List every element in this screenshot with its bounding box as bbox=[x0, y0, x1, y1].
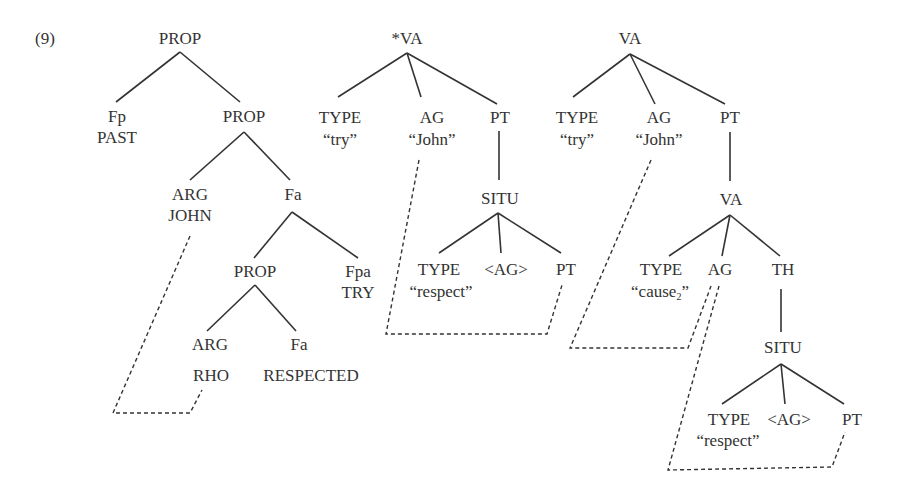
node-arg: ARG bbox=[172, 185, 208, 204]
node-fp: Fp bbox=[108, 107, 126, 126]
node-fpa: Fpa bbox=[345, 262, 371, 281]
edge bbox=[292, 212, 358, 258]
node-fa: Fa bbox=[285, 185, 302, 204]
tree-1: PROP Fp PAST PROP ARG JOHN Fa PROP Fpa T… bbox=[97, 29, 375, 413]
node-type: TYPE bbox=[708, 410, 751, 429]
node-arg-value: JOHN bbox=[168, 206, 211, 225]
node-situ: SITU bbox=[764, 338, 802, 357]
edge bbox=[722, 364, 781, 404]
edge bbox=[630, 54, 655, 104]
node-ag-value: “John” bbox=[408, 130, 455, 149]
node-pt: PT bbox=[556, 260, 576, 279]
edge bbox=[730, 215, 780, 256]
node-th: TH bbox=[772, 260, 795, 279]
edge bbox=[255, 285, 296, 331]
node-va-starred: *VA bbox=[392, 29, 424, 48]
tree-3: VA TYPE “try” AG “John” PT VA TYPE “caus… bbox=[556, 29, 863, 470]
node-ag-value: “John” bbox=[635, 130, 682, 149]
edge bbox=[190, 132, 244, 180]
edge bbox=[439, 213, 498, 253]
edge bbox=[722, 215, 730, 256]
node-fa: Fa bbox=[291, 335, 308, 354]
node-prop: PROP bbox=[234, 262, 277, 281]
node-pt: PT bbox=[842, 410, 862, 429]
node-va: VA bbox=[619, 29, 642, 48]
node-type: TYPE bbox=[640, 260, 683, 279]
node-fpa-value: TRY bbox=[341, 283, 374, 302]
edge bbox=[207, 285, 255, 331]
node-type-value: “respect” bbox=[696, 431, 759, 450]
node-ag-empty: <AG> bbox=[484, 260, 528, 279]
node-prop-root: PROP bbox=[159, 29, 202, 48]
node-situ: SITU bbox=[481, 189, 519, 208]
edge bbox=[116, 52, 180, 102]
node-pt: PT bbox=[490, 108, 510, 127]
edge bbox=[781, 364, 785, 404]
node-ag: AG bbox=[647, 108, 672, 127]
node-type-value: “cause2” bbox=[631, 282, 689, 302]
edge bbox=[180, 52, 240, 102]
node-type-value: “try” bbox=[560, 130, 594, 149]
node-fa-value: RESPECTED bbox=[263, 366, 358, 385]
node-ag-empty: <AG> bbox=[767, 410, 811, 429]
edge bbox=[573, 54, 630, 97]
coreference-link bbox=[113, 236, 202, 413]
node-arg: ARG bbox=[192, 335, 228, 354]
node-type: TYPE bbox=[418, 260, 461, 279]
node-type: TYPE bbox=[319, 108, 362, 127]
node-type: TYPE bbox=[556, 108, 599, 127]
edge bbox=[498, 213, 561, 253]
edge bbox=[338, 53, 407, 97]
coreference-link bbox=[386, 160, 562, 334]
edge bbox=[498, 213, 501, 253]
type-value-close: ” bbox=[681, 282, 689, 301]
type-value-text: “cause bbox=[631, 282, 676, 301]
node-prop: PROP bbox=[223, 107, 266, 126]
node-ag: AG bbox=[420, 108, 445, 127]
tree-diagram: (9) PROP Fp PAST PROP ARG JOHN Fa PROP F… bbox=[0, 0, 903, 496]
node-arg-value: RHO bbox=[193, 366, 229, 385]
node-type-value: “respect” bbox=[409, 282, 472, 301]
edge bbox=[244, 132, 290, 180]
node-ag: AG bbox=[708, 260, 733, 279]
node-va: VA bbox=[720, 190, 743, 209]
node-type-value: “try” bbox=[323, 130, 357, 149]
coreference-link bbox=[570, 160, 711, 348]
edge bbox=[669, 215, 730, 256]
node-fp-value: PAST bbox=[97, 128, 138, 147]
edge bbox=[630, 54, 725, 104]
edge bbox=[781, 364, 844, 404]
node-pt: PT bbox=[720, 108, 740, 127]
edge bbox=[254, 212, 292, 258]
example-number: (9) bbox=[35, 29, 55, 48]
